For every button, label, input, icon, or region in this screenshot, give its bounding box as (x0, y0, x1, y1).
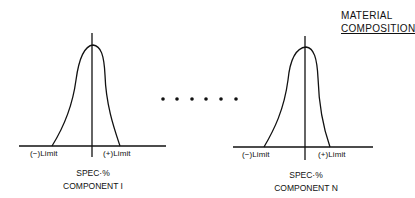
plus-limit-label: (+)Limit (318, 150, 346, 159)
spec-percent-label: SPEC·% (48, 168, 138, 178)
distribution-curve (52, 45, 120, 146)
distribution-chart-component-1 (19, 33, 166, 157)
component-label: COMPONENT I (48, 181, 138, 191)
diagram-title-line1: MATERIAL (341, 10, 393, 21)
diagram-title-line2: COMPOSITION (341, 23, 415, 34)
minus-limit-label: (−)Limit (30, 149, 58, 158)
plus-limit-label: (+)Limit (103, 149, 131, 158)
distribution-chart-component-n (233, 36, 373, 160)
distribution-curve (264, 47, 330, 147)
ellipsis-dots (161, 97, 238, 101)
minus-limit-label: (−)Limit (242, 150, 270, 159)
spec-percent-label: SPEC·% (261, 170, 351, 180)
component-label: COMPONENT N (261, 183, 351, 193)
